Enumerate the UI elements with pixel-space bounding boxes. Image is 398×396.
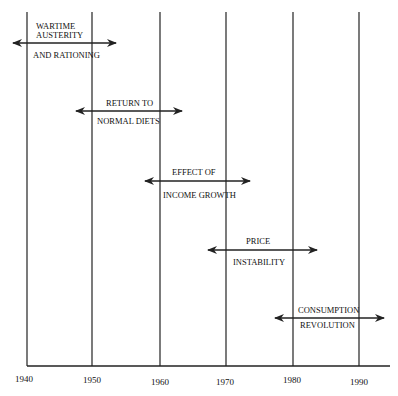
axis-label-1950: 1950 — [83, 375, 101, 385]
period-consumption-line2: REVOLUTION — [300, 320, 355, 330]
axis-label-1990: 1990 — [350, 377, 368, 387]
period-wartime-line1b: AUSTERITY — [36, 30, 83, 40]
period-return-line2: NORMAL DIETS — [97, 116, 160, 126]
period-wartime-line2: AND RATIONING — [33, 50, 100, 60]
period-consumption-line1: CONSUMPTION — [298, 305, 359, 315]
period-income-line1: EFFECT OF — [172, 167, 216, 177]
period-price-line2: INSTABILITY — [233, 257, 285, 267]
axis-label-1960: 1960 — [151, 377, 169, 387]
timeline-diagram: WARTIME AUSTERITY AND RATIONING RETURN T… — [0, 0, 398, 396]
axis-label-1970: 1970 — [216, 377, 234, 387]
period-income-line2: INCOME GROWTH — [163, 190, 236, 200]
axis-label-1940: 1940 — [15, 374, 33, 384]
period-price-line1: PRICE — [246, 236, 270, 246]
period-return-line1: RETURN TO — [106, 98, 153, 108]
axis-label-1980: 1980 — [283, 375, 301, 385]
